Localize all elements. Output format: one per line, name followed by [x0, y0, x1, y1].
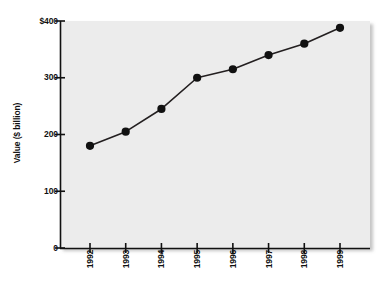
y-axis-title: Value ($ billion): [12, 68, 22, 198]
x-axis-tick-labels: 19921993199419951996199719981999: [0, 0, 392, 294]
x-axis-tick-label: 1994: [156, 239, 166, 279]
x-axis-tick-label: 1993: [121, 239, 131, 279]
x-axis-tick-label: 1997: [264, 239, 274, 279]
x-axis-tick-label: 1998: [299, 239, 309, 279]
x-axis-tick-label: 1996: [228, 239, 238, 279]
line-chart: 0100200300$400 1992199319941995199619971…: [0, 0, 392, 294]
x-axis-tick-label: 1999: [335, 239, 345, 279]
x-axis-tick-label: 1992: [85, 239, 95, 279]
x-axis-tick-label: 1995: [192, 239, 202, 279]
